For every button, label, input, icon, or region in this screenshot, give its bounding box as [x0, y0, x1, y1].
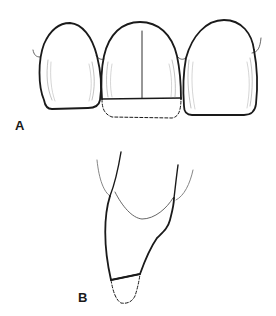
panel-b-label: B: [78, 290, 87, 305]
lingual-gingiva: [176, 170, 193, 200]
labial-surface-upper: [110, 152, 121, 196]
panel-a-label: A: [15, 118, 24, 133]
crown-profile: [105, 196, 174, 280]
labial-gingiva: [97, 160, 110, 196]
lingual-root: [174, 165, 178, 198]
incisal-reduction-line-b: [111, 274, 140, 280]
tooth-central: [101, 22, 181, 99]
panel-b: [97, 152, 193, 303]
tooth-central-right: [183, 20, 257, 115]
incisal-reduction-line: [102, 98, 181, 99]
reduction-outline-dashed: [102, 98, 181, 118]
panel-a: [33, 20, 261, 118]
gingiva-left: [33, 50, 40, 57]
dental-diagram: [0, 0, 276, 316]
tooth-lateral-left: [40, 23, 102, 109]
cej-curve: [115, 192, 173, 219]
